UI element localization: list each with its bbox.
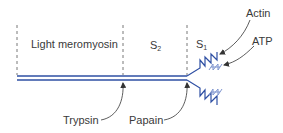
region-label-s2: S2 (150, 40, 161, 52)
label-papain: Papain (129, 115, 163, 126)
region-label-s1: S1 (196, 39, 207, 51)
s1-subscript: 1 (203, 44, 207, 51)
label-actin: Actin (246, 8, 270, 19)
actin-arrow (220, 20, 250, 54)
region-label-light-meromyosin: Light meromyosin (31, 39, 118, 50)
papain-arrow (164, 83, 187, 120)
atp-site-upper (209, 64, 222, 70)
label-trypsin: Trypsin (63, 115, 99, 126)
trypsin-arrow (101, 83, 123, 120)
s2-subscript: 2 (157, 45, 161, 52)
label-atp: ATP (252, 36, 273, 47)
heavy-chain-tail (17, 76, 187, 80)
